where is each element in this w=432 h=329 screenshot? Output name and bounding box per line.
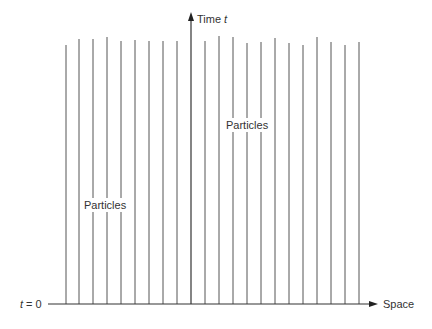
particles-label-right: Particles (226, 119, 269, 131)
time-axis-arrowhead-icon (188, 12, 194, 21)
space-axis-label: Space (383, 298, 414, 310)
origin-label-text: = 0 (23, 298, 42, 310)
particle-worldlines (66, 36, 359, 304)
particles-label-left: Particles (84, 199, 127, 211)
space-axis-arrowhead-icon (369, 301, 378, 307)
origin-label: t = 0 (20, 298, 42, 310)
time-axis-label-text: Time (197, 13, 224, 25)
time-axis-label-variable: t (224, 13, 228, 25)
time-axis-label: Time t (197, 13, 228, 25)
spacetime-diagram: Time t Space t = 0 Particles Particles (0, 0, 432, 329)
